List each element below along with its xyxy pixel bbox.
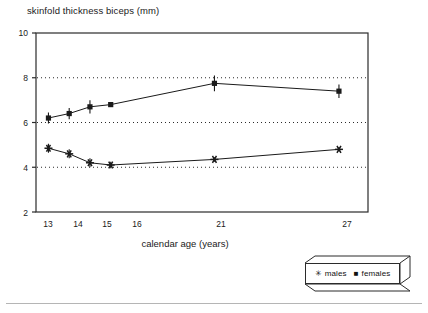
square-marker-icon: ■ [354,270,359,278]
legend-item-males: ✳ males [315,269,347,278]
legend-item-females: ■ females [354,269,391,278]
asterisk-marker-icon: ✳ [315,270,322,278]
footer-divider [6,303,422,304]
chart-legend[interactable]: ✳ males ■ females [305,263,400,284]
series-males [44,144,343,169]
chart-figure: skinfold thickness biceps (mm) 10 8 6 4 … [0,0,428,313]
legend-label-females: females [362,269,391,278]
series-females [46,76,342,124]
legend-label-males: males [325,269,347,278]
